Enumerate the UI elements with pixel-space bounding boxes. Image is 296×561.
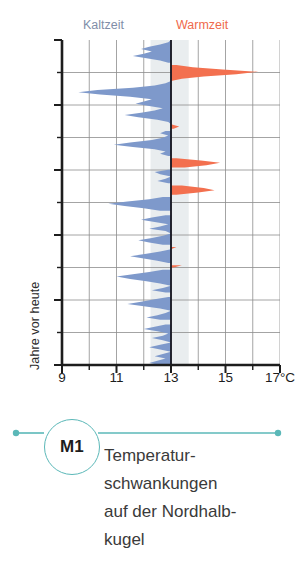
legend-label-warmzeit: Warmzeit <box>176 18 228 32</box>
plot-area <box>62 40 280 365</box>
x-axis-tick-label: 17°C <box>265 370 295 385</box>
y-axis-tick-labels: 0200 000400 000600 000800 0001 000 000 <box>0 0 58 412</box>
x-axis-tick-label: 11 <box>109 370 123 385</box>
caption-line-3: auf der Nordhalb- <box>104 498 290 526</box>
caption-text: Temperatur- schwankungen auf der Nordhal… <box>104 442 290 554</box>
temperature-chart: Jahre vor heute 0200 000400 000600 00080… <box>0 0 296 412</box>
x-axis-tick-label: 13 <box>163 370 178 385</box>
figure-caption: M1 Temperatur- schwankungen auf der Nord… <box>0 418 296 561</box>
material-badge-m1: M1 <box>44 419 100 475</box>
caption-line-2: schwankungen <box>104 470 290 498</box>
x-axis-tick-label: 15 <box>218 370 233 385</box>
caption-line-1: Temperatur- <box>104 442 290 470</box>
legend-label-kaltzeit: Kaltzeit <box>83 18 124 32</box>
chart-svg <box>62 40 280 365</box>
caption-line-4: kugel <box>104 526 290 554</box>
x-axis-tick-label: 9 <box>58 370 66 385</box>
material-badge-label: M1 <box>60 437 84 457</box>
